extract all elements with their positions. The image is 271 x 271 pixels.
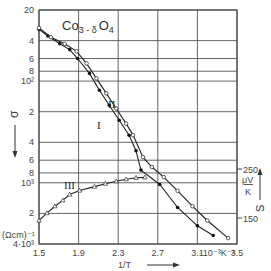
y-axis-left-unit: (Ωcm)⁻¹ <box>2 230 35 240</box>
x-axis-label: 1/T <box>118 260 132 270</box>
data-point <box>85 62 89 66</box>
y-tick-label: 20 <box>24 5 34 15</box>
grid <box>39 10 237 244</box>
data-point <box>88 72 92 76</box>
chart-title: Co3 - δO4 <box>62 18 114 35</box>
plot-frame <box>39 10 237 244</box>
data-point <box>75 50 79 54</box>
data-point <box>127 133 131 137</box>
series-III <box>37 175 147 222</box>
data-point <box>176 189 180 193</box>
series-label-I: I <box>97 119 101 131</box>
y-tick-label: 10³ <box>21 178 34 188</box>
data-point <box>206 219 210 223</box>
x-tick-label: 2.7 <box>152 248 165 258</box>
y-tick-label: 10² <box>21 76 34 86</box>
data-point <box>162 175 166 179</box>
y-tick-label: 8 <box>29 66 34 76</box>
data-point <box>124 122 128 126</box>
y-tick-label: 2 <box>29 107 34 117</box>
y-tick-label: 4·10³ <box>13 239 34 249</box>
series-label-III: III <box>64 179 75 191</box>
data-point <box>196 224 200 228</box>
y-tick-label: 4 <box>29 137 34 147</box>
y-right-tick-label: 150 <box>243 214 258 224</box>
y-tick-label: 6 <box>29 155 34 165</box>
y-axis-right-unit-num: μV <box>242 175 253 185</box>
x-axis-unit: ·10⁻³K⁻¹ <box>200 248 235 258</box>
data-point <box>211 234 215 238</box>
data-point <box>98 88 102 92</box>
data-point <box>158 183 162 187</box>
data-point <box>139 168 143 172</box>
y-axis-left-ticks: 2046810²246810³24·10³ <box>13 5 34 249</box>
y-tick-label: 8 <box>29 168 34 178</box>
y-tick-label: 4 <box>29 36 34 46</box>
series-label-II: II <box>108 98 116 110</box>
series-I <box>37 28 215 238</box>
data-point <box>105 92 109 96</box>
down-arrow-icon <box>13 125 18 158</box>
data-point <box>226 236 230 240</box>
data-point <box>95 77 99 81</box>
data-point <box>49 35 53 39</box>
data-point <box>141 155 145 159</box>
x-tick-label: 1.5 <box>33 248 46 258</box>
chart: 2046810²246810³24·10³ 1.51.92.32.73.13.5… <box>0 0 271 271</box>
data-point <box>176 206 180 210</box>
data-point <box>63 42 67 46</box>
data-point <box>131 133 135 137</box>
y-tick-label: 2 <box>29 208 34 218</box>
y-tick-label: 6 <box>29 54 34 64</box>
y-axis-left-label: σ <box>7 110 21 118</box>
data-point <box>191 204 195 208</box>
up-arrow-icon <box>258 168 263 200</box>
data-point <box>117 118 121 122</box>
x-tick-label: 2.3 <box>112 248 125 258</box>
data-point <box>76 57 80 61</box>
y-axis-right-unit-den: K <box>245 187 251 197</box>
x-tick-label: 1.9 <box>72 248 85 258</box>
x-axis-ticks: 1.51.92.32.73.13.5·10⁻³K⁻¹ <box>33 248 244 258</box>
y-axis-right-label: S <box>254 205 266 212</box>
data-point <box>150 165 154 169</box>
y-right-tick-label: 250 <box>243 165 258 175</box>
data-point <box>134 149 138 153</box>
right-arrow-icon <box>147 263 180 268</box>
data-point <box>37 26 41 30</box>
